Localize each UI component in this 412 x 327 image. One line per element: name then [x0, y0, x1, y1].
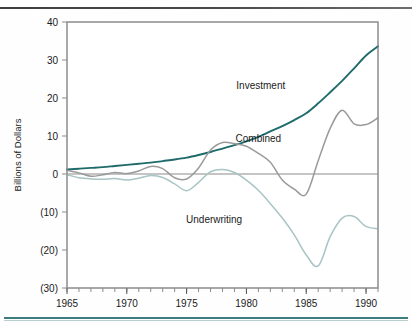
y-tick-label: (30) [40, 283, 58, 294]
x-tick-label: 1970 [116, 298, 139, 309]
bottom-divider-rule [4, 317, 408, 319]
series-label-combined: Combined [236, 133, 282, 144]
x-tick-label: 1965 [56, 298, 79, 309]
series-label-investment: Investment [236, 80, 285, 91]
y-tick-label: 20 [47, 93, 59, 104]
x-axis-minor-ticks [67, 288, 378, 292]
y-tick-label: 10 [47, 131, 59, 142]
x-tick-label: 1990 [355, 298, 378, 309]
y-axis-tick-labels: 403020100(10)(20)(30) [40, 17, 58, 294]
y-tick-label: 0 [52, 169, 58, 180]
y-tick-label: 40 [47, 17, 59, 28]
y-tick-label: (10) [40, 207, 58, 218]
x-tick-label: 1975 [175, 298, 198, 309]
y-axis-ticks [62, 22, 67, 288]
bottom-divider-rule-shadow [4, 320, 408, 321]
y-tick-label: (20) [40, 245, 58, 256]
x-tick-label: 1985 [295, 298, 318, 309]
x-axis-tick-labels: 196519701975198019851990 [56, 298, 378, 309]
y-axis-title: Billions of Dollars [12, 118, 23, 191]
x-axis-major-ticks [67, 288, 366, 294]
line-chart-plot: 403020100(10)(20)(30) 196519701975198019… [0, 0, 412, 327]
x-tick-label: 1980 [235, 298, 258, 309]
chart-figure: 403020100(10)(20)(30) 196519701975198019… [0, 0, 412, 327]
y-tick-label: 30 [47, 55, 59, 66]
plot-area-frame [67, 22, 378, 288]
series-label-underwriting: Underwriting [186, 214, 242, 225]
